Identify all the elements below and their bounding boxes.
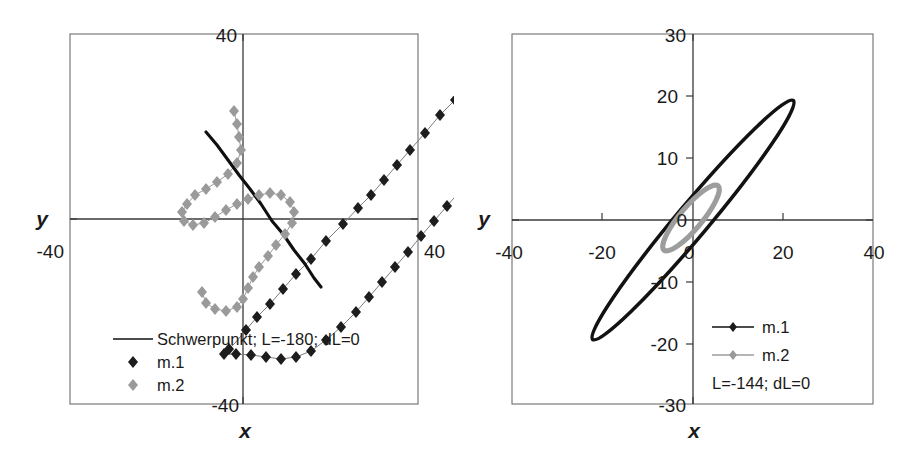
y-tick-label-0-right: 0 <box>676 210 687 231</box>
x-axis-title-left: x <box>238 419 252 442</box>
legend-label-m2-right: m.2 <box>762 346 790 364</box>
chart-panel-right: 30 20 10 0 -10 -20 -30 -40 -20 0 20 40 y… <box>454 0 908 463</box>
legend-left: Schwerpunkt; L=-180; dL=0 m.1 m.2 <box>113 330 360 394</box>
y-tick-label-bottom-left: -40 <box>212 395 239 416</box>
x-tick-label-40-right: 40 <box>863 242 884 263</box>
legend-right: m.1 m.2 L=-144; dL=0 <box>712 318 810 392</box>
x-tick-label-0-right: 0 <box>684 242 695 263</box>
x-axis-title-right: x <box>687 419 701 442</box>
x-tick-label-m40-right: -40 <box>495 242 522 263</box>
y-tick-label-30-right: 30 <box>665 25 686 46</box>
y-tick-label-10-right: 10 <box>657 148 678 169</box>
legend-annotation-right: L=-144; dL=0 <box>712 374 810 392</box>
y-tick-label-m20-right: -20 <box>651 334 678 355</box>
y-tick-label-m30-right: -30 <box>659 395 686 416</box>
legend-swatch-m1-right <box>729 322 737 332</box>
x-tick-label-20-right: 20 <box>772 242 793 263</box>
y-tick-label-m10-right: -10 <box>651 272 678 293</box>
legend-swatch-m2 <box>128 379 138 391</box>
x-tick-label-m20-right: -20 <box>588 242 615 263</box>
y-tick-label-20-right: 20 <box>657 86 678 107</box>
legend-swatch-m1 <box>128 356 138 368</box>
figure-container: 40 -40 -40 40 y x Schwerpunkt; L=-180; d… <box>0 0 908 463</box>
legend-swatch-m2-right <box>729 350 737 360</box>
legend-label-schwerpunkt: Schwerpunkt; L=-180; dL=0 <box>157 330 360 348</box>
legend-label-m1-right: m.1 <box>762 318 790 336</box>
y-axis-title-right: y <box>477 207 491 230</box>
chart-panel-left: 40 -40 -40 40 y x Schwerpunkt; L=-180; d… <box>0 0 454 463</box>
x-tick-label-right-left: 40 <box>424 241 445 262</box>
series-m2-markers-left <box>177 105 299 317</box>
y-tick-label-top-left: 40 <box>216 25 237 46</box>
legend-label-m2: m.2 <box>157 376 185 394</box>
legend-label-m1: m.1 <box>157 353 185 371</box>
y-axis-title-left: y <box>35 207 49 230</box>
x-tick-label-left-left: -40 <box>37 241 64 262</box>
